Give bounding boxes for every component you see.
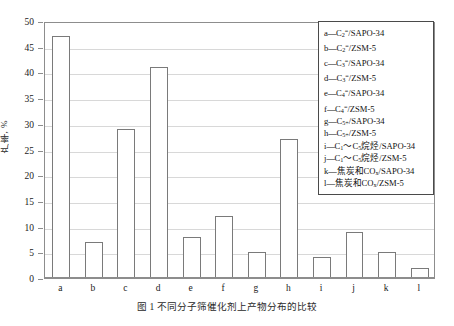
bar-a (52, 36, 70, 278)
x-axis-tick-e: e (174, 282, 207, 294)
y-axis: 产率, % 05101520253035404550 (0, 0, 44, 326)
legend-item-c: c—C3=/SAPO-34 (324, 55, 429, 70)
x-axis-tick-c: c (109, 282, 142, 294)
y-axis-tick-label: 10 (0, 223, 34, 233)
x-axis-tick-k: k (370, 282, 403, 294)
legend-item-g: g—C5+/SAPO-34 (324, 116, 429, 129)
legend-box: a—C2=/SAPO-34b—C2=/ZSM-5c—C3=/SAPO-34d—C… (318, 21, 434, 195)
legend-item-d: d—C3=/ZSM-5 (324, 70, 429, 85)
y-axis-tick-label: 40 (0, 68, 34, 78)
legend-item-l: l—焦炭和COx/ZSM-5 (324, 178, 429, 191)
y-axis-tick-mark (38, 151, 43, 152)
legend-item-f: f—C4=/ZSM-5 (324, 101, 429, 116)
legend-item-j: j—C1～C5烷烃/ZSM-5 (324, 153, 429, 166)
x-axis-baseline (45, 277, 434, 278)
y-axis-tick-label: 35 (0, 94, 34, 104)
y-axis-tick-mark (38, 22, 43, 23)
bar-i (313, 257, 331, 278)
y-axis-tick-label: 30 (0, 120, 34, 130)
bar-k (378, 252, 396, 278)
x-axis-tick-b: b (77, 282, 110, 294)
bar-j (346, 232, 364, 278)
figure-caption: 图 1 不同分子筛催化剂上产物分布的比较 (0, 300, 454, 313)
bar-d (150, 67, 168, 278)
bar-g (248, 252, 266, 278)
y-axis-tick-mark (38, 176, 43, 177)
y-axis-tick-mark (38, 125, 43, 126)
y-axis-tick-mark (38, 279, 43, 280)
x-axis-tick-h: h (272, 282, 305, 294)
x-axis-tick-g: g (240, 282, 273, 294)
y-axis-tick-mark (38, 253, 43, 254)
x-axis: abcdefghijkl (44, 281, 435, 297)
figure-container: 产率, % 05101520253035404550 abcdefghijkl … (0, 0, 454, 326)
bar-e (183, 237, 201, 278)
x-axis-tick-f: f (207, 282, 240, 294)
bar-h (280, 139, 298, 278)
legend-item-k: k—焦炭和COx/SAPO-34 (324, 166, 429, 179)
x-axis-tick-l: l (402, 282, 435, 294)
y-axis-tick-mark (38, 48, 43, 49)
y-axis-tick-label: 5 (0, 248, 34, 258)
x-axis-tick-j: j (337, 282, 370, 294)
legend-item-b: b—C2=/ZSM-5 (324, 40, 429, 55)
x-axis-tick-d: d (142, 282, 175, 294)
bar-b (85, 242, 103, 278)
bar-c (117, 129, 135, 278)
y-axis-tick-label: 25 (0, 146, 34, 156)
x-axis-tick-i: i (305, 282, 338, 294)
x-axis-tick-a: a (44, 282, 77, 294)
bar-f (215, 216, 233, 278)
y-axis-tick-label: 0 (0, 274, 34, 284)
y-axis-tick-label: 45 (0, 43, 34, 53)
y-axis-tick-label: 50 (0, 17, 34, 27)
y-axis-tick-mark (38, 73, 43, 74)
y-axis-tick-label: 15 (0, 197, 34, 207)
y-axis-tick-mark (38, 228, 43, 229)
y-axis-tick-mark (38, 202, 43, 203)
legend-item-e: e—C4=/SAPO-34 (324, 85, 429, 100)
legend-item-i: i—C1～C5烷烃/SAPO-34 (324, 141, 429, 154)
legend-item-h: h—C5+/ZSM-5 (324, 128, 429, 141)
y-axis-tick-mark (38, 99, 43, 100)
y-axis-tick-label: 20 (0, 171, 34, 181)
legend-item-a: a—C2=/SAPO-34 (324, 25, 429, 40)
